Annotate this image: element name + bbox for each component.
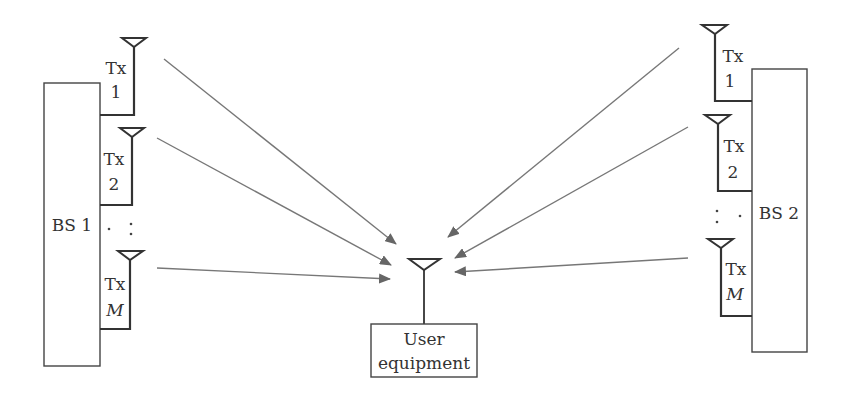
tx-index: 2 <box>728 162 739 182</box>
tx-label: Tx <box>104 149 125 169</box>
tx-label: Tx <box>723 46 744 66</box>
antenna-feed-line <box>721 247 752 316</box>
arrow-bs2-txM-to-ue <box>455 258 688 272</box>
bs1-ellipsis <box>108 223 133 236</box>
arrow-bs1-tx2-to-ue <box>157 138 391 265</box>
bs1-antenna-2: Tx 2 <box>100 128 144 205</box>
arrow-bs2-tx2-to-ue <box>455 127 688 258</box>
arrow-bs2-tx1-to-ue <box>448 48 679 237</box>
ue-label-line2: equipment <box>378 353 470 373</box>
tx-label: Tx <box>726 259 747 279</box>
diagram-canvas: BS 1 Tx 1 Tx 2 Tx M <box>0 0 847 403</box>
tx-index: 1 <box>725 71 736 91</box>
antenna-feed-line <box>100 46 134 115</box>
antenna-icon <box>705 115 730 124</box>
antenna-icon <box>120 128 144 137</box>
arrow-bs1-txM-to-ue <box>157 268 390 279</box>
base-station-2: BS 2 Tx 1 Tx 2 Tx M <box>702 25 807 352</box>
antenna-icon <box>702 25 727 34</box>
antenna-icon <box>122 38 146 47</box>
bs1-antenna-1: Tx 1 <box>100 38 146 115</box>
tx-index: M <box>105 300 124 320</box>
signal-arrows <box>157 48 688 279</box>
antenna-feed-line <box>100 135 132 205</box>
bs2-antenna-M: Tx M <box>708 239 752 316</box>
bs1-label: BS 1 <box>52 215 92 235</box>
user-equipment: User equipment <box>371 259 477 377</box>
base-station-1: BS 1 Tx 1 Tx 2 Tx M <box>44 38 146 366</box>
bs1-antenna-M: Tx M <box>100 251 143 329</box>
ue-antenna-icon <box>409 259 440 270</box>
arrow-bs1-tx1-to-ue <box>164 59 396 244</box>
bs2-label: BS 2 <box>759 203 799 223</box>
bs2-antenna-1: Tx 1 <box>702 25 752 101</box>
tx-label: Tx <box>724 136 745 156</box>
antenna-icon <box>118 251 143 260</box>
tx-label: Tx <box>105 274 126 294</box>
antenna-icon <box>708 239 733 248</box>
tx-index: 1 <box>111 82 122 102</box>
bs2-ellipsis <box>716 210 742 224</box>
ue-label-line1: User <box>403 329 445 349</box>
bs2-antenna-2: Tx 2 <box>705 115 752 191</box>
tx-index: M <box>725 284 744 304</box>
tx-label: Tx <box>106 58 127 78</box>
tx-index: 2 <box>109 174 120 194</box>
